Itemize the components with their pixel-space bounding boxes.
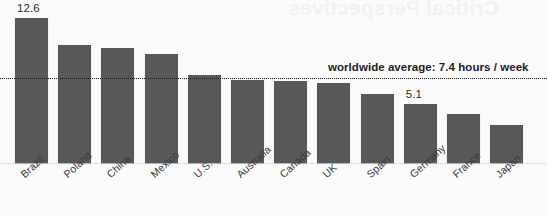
bar-mexico <box>145 54 178 163</box>
bar-u-s <box>188 75 221 163</box>
average-reference-label: worldwide average: 7.4 hours / week <box>328 61 529 73</box>
bar-uk <box>317 83 350 163</box>
bar-chart: Critical Perspectives 12.65.1 BrazilPola… <box>0 0 547 217</box>
plot-area: 12.65.1 BrazilPolandChinaMexicoU.S.Austr… <box>0 0 547 217</box>
bar-spain <box>361 94 394 163</box>
bar-brazil <box>15 18 48 163</box>
average-reference-line <box>0 78 547 79</box>
value-label-brazil: 12.6 <box>17 2 40 14</box>
bar-china <box>101 48 134 163</box>
bar-poland <box>58 45 91 163</box>
value-label-germany: 5.1 <box>406 88 422 100</box>
